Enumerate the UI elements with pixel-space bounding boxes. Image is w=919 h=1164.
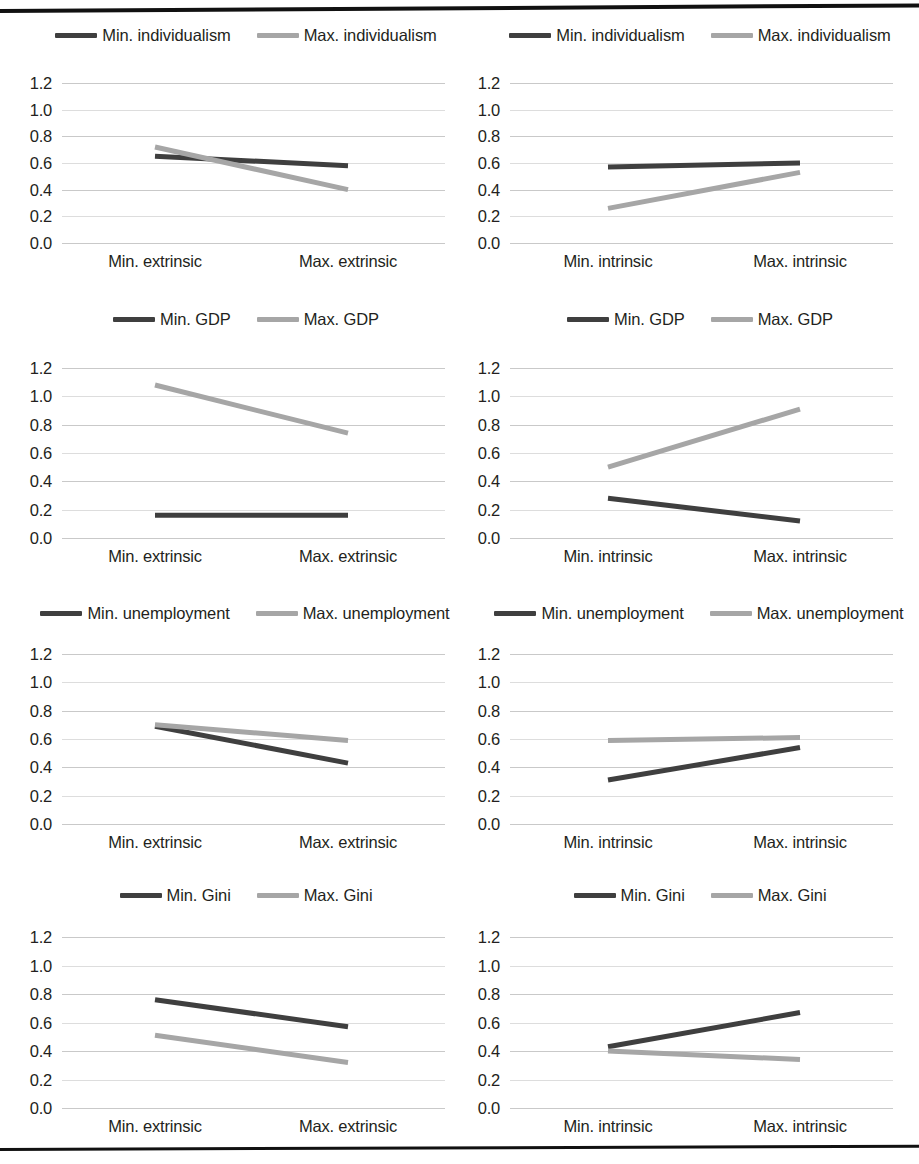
series-line-max (608, 1051, 800, 1060)
x-axis-category-label: Max. intrinsic (753, 1117, 846, 1136)
series-line-min (608, 1013, 800, 1047)
panel-grid: Min. individualismMax. individualism1.21… (0, 0, 919, 1164)
x-axis-category-label: Min. intrinsic (564, 1117, 653, 1136)
series-lines (0, 0, 919, 1164)
figure-page: Min. individualismMax. individualism1.21… (0, 0, 919, 1164)
